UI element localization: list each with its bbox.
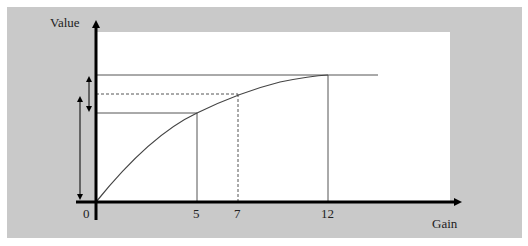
tick-0: 0 — [83, 206, 90, 222]
tick-12: 12 — [321, 206, 334, 222]
tick-5: 5 — [193, 206, 200, 222]
value-gain-diagram — [0, 0, 528, 246]
tick-7: 7 — [234, 206, 241, 222]
x-axis-label: Gain — [432, 216, 457, 232]
y-axis-label: Value — [50, 15, 80, 31]
